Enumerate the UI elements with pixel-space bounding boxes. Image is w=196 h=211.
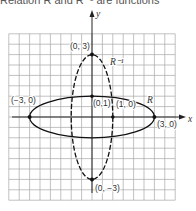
point-3-0 <box>152 115 156 119</box>
label-0-1: (0,1) <box>93 98 111 108</box>
point-0-neg3 <box>90 177 94 181</box>
point-neg3-0 <box>28 115 32 119</box>
y-axis-label: y <box>95 9 101 19</box>
label-neg3-0: (−3, 0) <box>11 95 36 105</box>
x-axis-label: x <box>187 114 193 124</box>
ellipse-inverse-diagram: y x (0, 3) (−3, 0) (0,1) (1, 0) (3, 0) (… <box>0 0 196 211</box>
label-3-0: (3, 0) <box>157 119 177 129</box>
label-1-0: (1, 0) <box>116 99 136 109</box>
label-0-3: (0, 3) <box>70 41 90 51</box>
label-r-inverse: R⁻¹ <box>109 57 124 67</box>
label-r: R <box>146 95 153 105</box>
point-1-0 <box>111 115 115 119</box>
point-0-3 <box>90 53 94 57</box>
y-axis-arrow-icon <box>90 10 95 17</box>
label-0-neg3: (0, −3) <box>95 183 120 193</box>
x-axis-arrow-icon <box>179 115 186 120</box>
